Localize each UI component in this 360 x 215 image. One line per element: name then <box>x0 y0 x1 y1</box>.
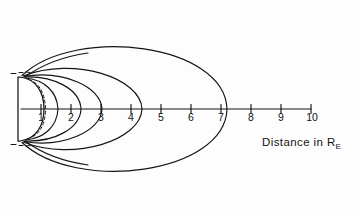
magnetic-field-diagram <box>0 0 360 215</box>
open-field-line-lower <box>25 141 88 165</box>
axis-tick-label-5: 5 <box>158 111 164 123</box>
open-field-line-upper <box>25 53 88 77</box>
axis-tick-label-1: 1 <box>38 111 44 123</box>
axis-caption-subscript: E <box>336 142 341 151</box>
axis-tick-label-8: 8 <box>248 111 254 123</box>
axis-tick-label-2: 2 <box>68 111 74 123</box>
axis-tick-label-4: 4 <box>128 111 134 123</box>
axis-tick-label-6: 6 <box>188 111 194 123</box>
axis-tick-label-3: 3 <box>98 111 104 123</box>
polar-dash-lower-3 <box>26 146 30 147</box>
distance-axis <box>21 105 311 114</box>
polar-dash-upper-3 <box>26 72 30 73</box>
axis-tick-label-9: 9 <box>278 111 284 123</box>
axis-caption-text: Distance in R <box>262 136 336 148</box>
axis-caption: Distance in RE <box>262 136 341 151</box>
axis-tick-label-7: 7 <box>218 111 224 123</box>
axis-tick-label-10: 10 <box>306 111 318 123</box>
